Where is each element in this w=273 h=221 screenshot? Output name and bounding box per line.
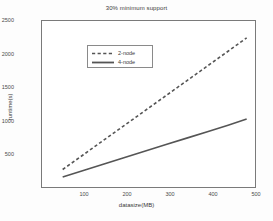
- legend-label-2-node: 2-node: [118, 50, 135, 57]
- y-tick-label-2000: 2000: [2, 51, 14, 57]
- series-line-4-node: [63, 119, 247, 177]
- x-tick-label-100: 100: [79, 191, 88, 197]
- legend-solid-swatch-icon: [92, 59, 114, 66]
- y-axis-label: runtime(s): [7, 77, 13, 137]
- x-tick-label-300: 300: [165, 191, 174, 197]
- y-tick-label-500: 500: [5, 151, 14, 157]
- x-axis-label: datasize(MB): [0, 202, 273, 208]
- legend-label-4-node: 4-node: [118, 59, 135, 66]
- legend-entry-4-node: 4-node: [92, 58, 149, 66]
- x-tick-label-500: 500: [251, 191, 260, 197]
- figure-canvas: 30% minimum support 500 1000 1500 2000 2…: [0, 0, 273, 221]
- legend-entry-2-node: 2-node: [92, 49, 149, 57]
- chart-legend: 2-node 4-node: [87, 45, 153, 68]
- x-tick-label-200: 200: [122, 191, 131, 197]
- y-tick-label-2500: 2500: [2, 17, 14, 23]
- plot-area: 2-node 4-node: [41, 20, 256, 188]
- x-tick-label-400: 400: [208, 191, 217, 197]
- legend-dashed-swatch-icon: [92, 50, 114, 57]
- chart-title: 30% minimum support: [0, 5, 273, 11]
